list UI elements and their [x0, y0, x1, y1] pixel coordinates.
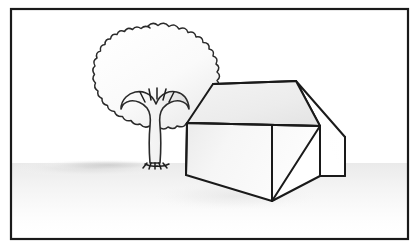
left-corner-edge [186, 123, 187, 175]
illustration-canvas [0, 0, 418, 249]
house-and-tree-drawing [0, 0, 418, 249]
